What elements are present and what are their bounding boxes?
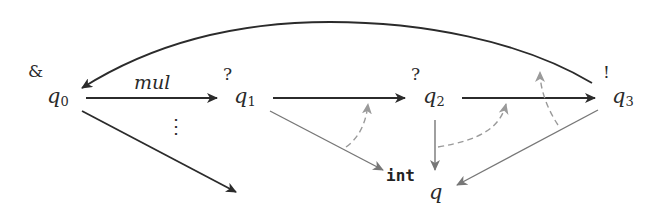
edge-q0-offscreen bbox=[82, 111, 236, 192]
node-q1-sub: 1 bbox=[247, 94, 255, 109]
node-q2: q2 bbox=[423, 86, 445, 108]
node-q0-polarity: & bbox=[28, 63, 43, 80]
node-q1: q1 bbox=[234, 86, 256, 108]
diagram-canvas: & q0 mul ⋮ ? q1 ? q2 ! q3 int q bbox=[0, 0, 659, 217]
node-q3-polarity: ! bbox=[603, 64, 610, 81]
node-q2-polarity: ? bbox=[411, 66, 420, 83]
edge-dashed-1 bbox=[346, 104, 368, 147]
node-q2-sub: 2 bbox=[436, 94, 444, 109]
node-q0-base: q bbox=[47, 84, 60, 108]
node-q1-base: q bbox=[234, 84, 247, 108]
edge-dashed-2 bbox=[438, 104, 506, 147]
node-q-polarity: int bbox=[386, 168, 415, 184]
edge-q1-q bbox=[270, 111, 383, 170]
edge-q3-q bbox=[457, 110, 598, 185]
node-q0-sub: 0 bbox=[60, 94, 68, 109]
diagram-edges bbox=[0, 0, 659, 217]
node-q1-polarity: ? bbox=[223, 66, 232, 83]
node-q0: q0 bbox=[47, 86, 69, 108]
ellipsis-more-edges: ⋮ bbox=[166, 116, 186, 136]
node-q3: q3 bbox=[612, 86, 634, 108]
edge-label-mul: mul bbox=[134, 73, 170, 92]
node-q3-base: q bbox=[612, 84, 625, 108]
node-q: q bbox=[429, 182, 442, 203]
node-q2-base: q bbox=[423, 84, 436, 108]
node-q3-sub: 3 bbox=[625, 94, 633, 109]
